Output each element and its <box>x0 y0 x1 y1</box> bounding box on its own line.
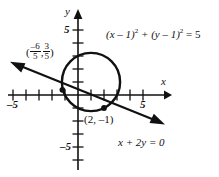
circle-equation-lead: (x – 1) <box>106 28 135 40</box>
graph-canvas <box>0 0 219 177</box>
point-label-upper-left: (–65, 35) <box>26 43 54 63</box>
intersection-dot-lower-right <box>101 105 107 111</box>
y-tick-label-neg5: –5 <box>60 141 71 152</box>
fraction-numerator: 3 <box>43 42 50 51</box>
fraction-denominator: 5 <box>30 51 41 61</box>
x-tick-label-5: 5 <box>140 99 146 110</box>
paren-close: ) <box>50 47 54 58</box>
line-arrowhead-left <box>10 62 26 73</box>
y-tick-label-5: 5 <box>64 24 70 35</box>
y-axis-label: y <box>65 6 70 17</box>
x-axis-label: x <box>161 76 166 87</box>
x-axis-arrowhead <box>164 91 172 100</box>
circle-equation-tail: = 5 <box>183 28 200 40</box>
x-tick-label-neg5: –5 <box>7 99 18 110</box>
line-equation-label: x + 2y = 0 <box>118 137 165 148</box>
point-label-lower-right: (2, –1) <box>84 114 113 125</box>
line-arrowhead-right <box>150 114 166 125</box>
fraction-neg-six-fifths: –65 <box>30 42 41 62</box>
circle-equation-label: (x – 1)2 + (y – 1)2 = 5 <box>106 29 201 40</box>
y-axis-arrowhead <box>74 9 83 19</box>
intersection-dot-upper-left <box>60 87 66 93</box>
fraction-three-fifths: 35 <box>43 42 50 62</box>
fraction-denominator: 5 <box>43 51 50 61</box>
fraction-numerator: –6 <box>30 42 41 51</box>
circle-equation-mid: + (y – 1) <box>138 28 180 40</box>
